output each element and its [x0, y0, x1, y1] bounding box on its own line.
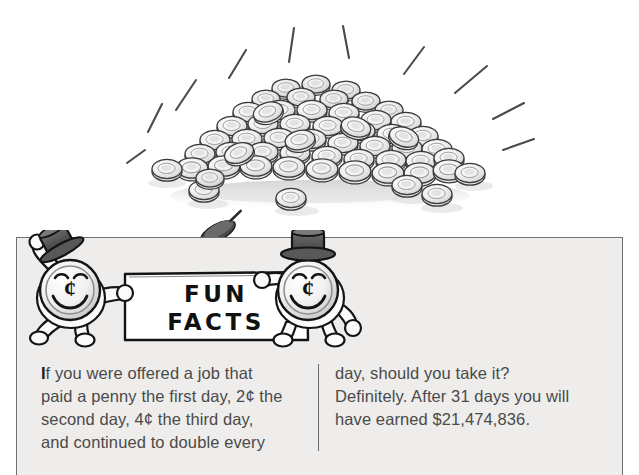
penny-character-left: ¢: [29, 230, 133, 347]
sign-label-fun: FUN: [184, 281, 248, 307]
fun-facts-panel: ¢ FUN FACTS: [16, 237, 623, 475]
penny-pile-drawing: [0, 0, 639, 237]
column-divider: [318, 364, 319, 451]
penny-character-right: ¢: [254, 230, 361, 347]
fact-line: have earned $21,474,836.: [335, 408, 605, 431]
fun-facts-banner-art: ¢ FUN FACTS: [17, 230, 624, 348]
coin-pile: [176, 75, 465, 186]
fact-line: and continued to double every: [41, 431, 309, 454]
fact-text-left-column: If you were offered a job that paid a pe…: [41, 362, 309, 454]
fact-line: paid a penny the first day, 2¢ the: [41, 385, 309, 408]
fact-line: day, should you take it?: [335, 362, 605, 385]
fun-facts-text-body: If you were offered a job that paid a pe…: [17, 356, 624, 475]
fact-line: second day, 4¢ the third day,: [41, 408, 309, 431]
fun-facts-banner: ¢ FUN FACTS: [17, 230, 624, 348]
cent-symbol-right: ¢: [302, 275, 314, 301]
sign-label-facts: FACTS: [167, 309, 265, 335]
cent-symbol-left: ¢: [64, 275, 76, 301]
penny-pile-illustration: [0, 0, 639, 237]
fact-line-text: f you were offered a job that: [46, 364, 253, 382]
fun-facts-sign: [125, 272, 308, 340]
dark-coin: [197, 211, 248, 237]
fact-text-right-column: day, should you take it? Definitely. Aft…: [335, 362, 605, 431]
fact-line: Definitely. After 31 days you will: [335, 385, 605, 408]
fact-line: If you were offered a job that: [41, 362, 309, 385]
